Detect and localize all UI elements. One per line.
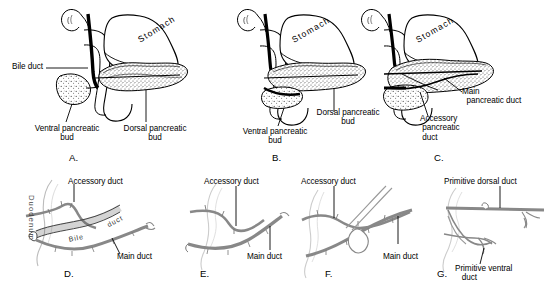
label-accessory-duct-f: Accessory duct	[301, 177, 356, 186]
label-bile-duct: Bile duct	[12, 62, 43, 71]
panel-letter-a: A.	[69, 152, 78, 163]
label-accessory-duct-e: Accessory duct	[204, 177, 259, 186]
label-ventral-pancreatic-bud-b: Ventral pancreatic bud	[225, 127, 325, 146]
panel-letter-b: B.	[272, 152, 281, 163]
panel-letter-d: D.	[64, 268, 74, 279]
label-accessory-duct-d: Accessory duct	[68, 177, 123, 186]
label-accessory-pancreatic-duct: Accessory pancreatic duct	[420, 114, 460, 142]
pancreas-development-figure: Bile duct Stomach Ventral pancreatic bud…	[0, 0, 556, 290]
label-dorsal-pancreatic-bud-a: Dorsal pancreatic bud	[110, 124, 200, 143]
primitive-dorsal-duct-line	[446, 208, 544, 210]
label-main-duct-e: Main duct	[247, 252, 282, 261]
panel-letter-g: G.	[437, 268, 447, 279]
label-main-duct-f: Main duct	[383, 252, 418, 261]
panel-letter-f: F.	[325, 268, 332, 279]
label-main-pancreatic-duct: Main pancreatic duct	[462, 87, 521, 106]
label-duodenum-d: Duodenum	[27, 195, 36, 241]
label-primitive-ventral-duct: Primitive ventral duct	[455, 264, 512, 283]
label-primitive-dorsal-duct: Primitive dorsal duct	[444, 177, 517, 186]
panel-letter-e: E.	[200, 268, 209, 279]
label-ventral-pancreatic-bud-a: Ventral pancreatic bud	[22, 124, 112, 143]
label-dorsal-pancreatic-bud-b: Dorsal pancreatic bud	[302, 108, 394, 127]
panel-letter-c: C.	[434, 152, 444, 163]
label-main-duct-d: Main duct	[117, 252, 152, 261]
